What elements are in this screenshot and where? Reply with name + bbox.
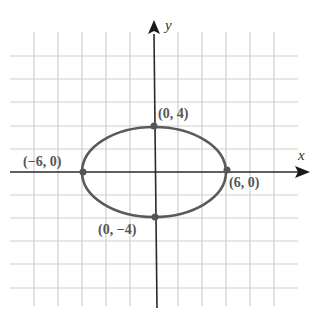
label-top-point: (0, 4): [158, 106, 189, 122]
point-left: [80, 169, 87, 176]
point-top: [151, 123, 158, 130]
label-left-point: (−6, 0): [23, 154, 62, 170]
graph-canvas: x y (0, 4) (−6, 0) (6, 0) (0, −4): [0, 0, 319, 313]
ellipse-graph: x y (0, 4) (−6, 0) (6, 0) (0, −4): [0, 0, 319, 313]
y-axis-label: y: [163, 17, 172, 33]
point-bottom: [152, 214, 159, 221]
label-bottom-point: (0, −4): [98, 222, 137, 238]
y-axis-arrow-icon: [148, 20, 160, 34]
point-right: [224, 167, 231, 174]
label-right-point: (6, 0): [229, 175, 260, 191]
x-axis-label: x: [297, 147, 305, 163]
